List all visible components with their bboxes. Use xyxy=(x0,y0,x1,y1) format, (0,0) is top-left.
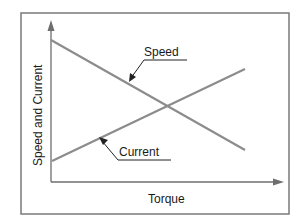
x-axis-arrow-icon xyxy=(273,179,284,186)
current-callout-arrow-icon xyxy=(99,137,108,145)
y-axis-title: Speed and Current xyxy=(31,64,45,166)
speed-callout-leader xyxy=(131,60,187,78)
diagram-frame xyxy=(21,13,289,214)
y-axis-arrow-icon xyxy=(48,20,55,31)
speed-current-torque-diagram: Speed Current Torque Speed and Current xyxy=(0,0,300,224)
speed-label: Speed xyxy=(144,45,179,59)
x-axis-title: Torque xyxy=(148,192,185,206)
speed-callout-arrow-icon xyxy=(129,73,136,82)
current-label: Current xyxy=(119,145,160,159)
